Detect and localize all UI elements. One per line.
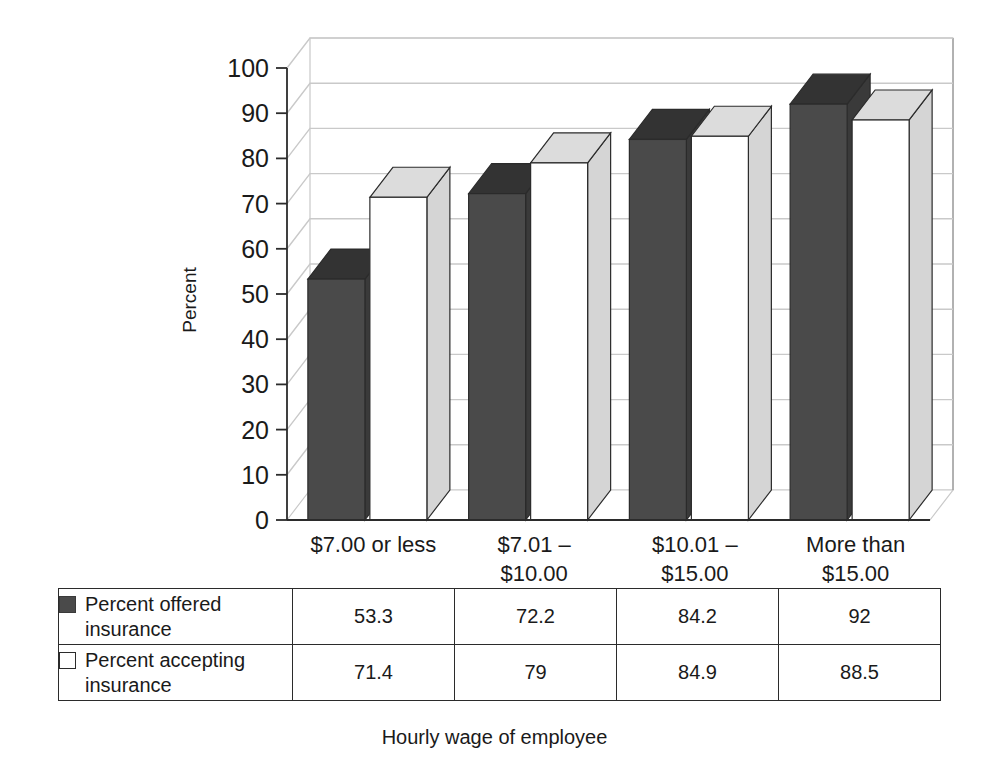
table-cell-s1-c4: 92 — [779, 589, 941, 645]
bar-front-face — [370, 197, 427, 520]
legend-label-line2: insurance — [85, 618, 172, 640]
y-tick-label-40: 40 — [241, 325, 269, 353]
y-tick-label-30: 30 — [241, 370, 269, 398]
legend-label-line2: insurance — [85, 674, 172, 696]
table-body: Percent offered insurance 53.3 72.2 84.2… — [59, 589, 941, 701]
x-axis-title: Hourly wage of employee — [0, 726, 989, 749]
category-label-3: $10.01 – — [652, 532, 738, 557]
table-row: Percent offered insurance 53.3 72.2 84.2… — [59, 589, 941, 645]
bar-front-face — [308, 279, 365, 520]
y-tick-label-0: 0 — [255, 506, 269, 534]
bar-front-face — [469, 194, 526, 520]
bar-front-face — [691, 136, 748, 520]
bar-s2-c1 — [370, 167, 450, 520]
legend-swatch-hollow-icon — [59, 652, 76, 669]
y-tick-label-60: 60 — [241, 235, 269, 263]
y-axis-title: Percent — [179, 267, 200, 333]
chart-page: 0102030405060708090100Percent$7.00 or le… — [0, 0, 989, 770]
category-label-2: $10.00 — [500, 561, 567, 585]
bar-side-face — [748, 106, 771, 520]
legend-label-line1: Percent offered — [85, 593, 221, 615]
bar-chart-svg: 0102030405060708090100Percent$7.00 or le… — [0, 0, 989, 585]
legend-cell-series-1: Percent offered insurance — [59, 589, 293, 645]
legend-label-series-1: Percent offered insurance — [85, 592, 221, 641]
bar-s2-c2 — [531, 133, 611, 520]
y-tick-label-20: 20 — [241, 416, 269, 444]
bar-side-face — [909, 90, 932, 520]
legend-label-line1: Percent accepting — [85, 649, 245, 671]
y-tick-label-90: 90 — [241, 99, 269, 127]
chart-plot-area: 0102030405060708090100Percent$7.00 or le… — [0, 0, 989, 585]
bar-front-face — [852, 120, 909, 520]
table-cell-s1-c2: 72.2 — [455, 589, 617, 645]
legend-swatch-filled-icon — [59, 596, 76, 613]
y-tick-label-80: 80 — [241, 144, 269, 172]
bar-s2-c3 — [691, 106, 771, 520]
table-cell-s1-c1: 53.3 — [293, 589, 455, 645]
table-cell-s2-c4: 88.5 — [779, 645, 941, 701]
table-cell-s2-c1: 71.4 — [293, 645, 455, 701]
category-label-3: $15.00 — [661, 561, 728, 585]
bar-front-face — [629, 139, 686, 520]
bar-front-face — [531, 163, 588, 520]
category-label-1: $7.00 or less — [310, 532, 436, 557]
legend-cell-series-2: Percent accepting insurance — [59, 645, 293, 701]
bar-front-face — [790, 104, 847, 520]
y-tick-label-70: 70 — [241, 190, 269, 218]
y-tick-label-50: 50 — [241, 280, 269, 308]
table-cell-s2-c2: 79 — [455, 645, 617, 701]
y-tick-label-100: 100 — [227, 54, 269, 82]
bar-side-face — [588, 133, 611, 520]
y-tick-label-10: 10 — [241, 461, 269, 489]
data-table: Percent offered insurance 53.3 72.2 84.2… — [58, 588, 941, 701]
table-row: Percent accepting insurance 71.4 79 84.9… — [59, 645, 941, 701]
category-label-2: $7.01 – — [497, 532, 571, 557]
bar-s2-c4 — [852, 90, 932, 520]
category-label-4: $15.00 — [822, 561, 889, 585]
legend-label-series-2: Percent accepting insurance — [85, 648, 245, 697]
category-label-4: More than — [806, 532, 905, 557]
bar-side-face — [427, 167, 450, 520]
table-cell-s1-c3: 84.2 — [617, 589, 779, 645]
table-cell-s2-c3: 84.9 — [617, 645, 779, 701]
